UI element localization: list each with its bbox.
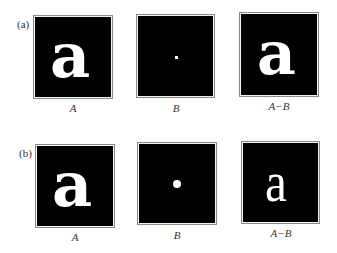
image-b-AminusB: a	[243, 143, 318, 222]
caption-a-AminusB: A−B	[239, 100, 319, 112]
caption-b-B: B	[137, 229, 217, 241]
caption-b-A: A	[35, 231, 115, 243]
image-b-B	[139, 144, 215, 223]
panel-b-AminusB: a	[241, 141, 320, 224]
row-label-b: (b)	[19, 147, 32, 159]
caption-a-B: B	[136, 102, 216, 114]
letter-a-glyph: a	[50, 25, 90, 87]
image-b-A: a	[37, 146, 113, 226]
point-structuring-element	[175, 56, 178, 59]
letter-a-glyph: a	[52, 154, 92, 216]
disk-structuring-element	[173, 180, 181, 188]
eroded-letter-a-glyph: a	[265, 153, 287, 211]
letter-a-glyph: a	[257, 23, 296, 83]
panel-a-AminusB: a	[239, 12, 319, 97]
image-a-AminusB: a	[241, 14, 317, 95]
caption-b-AminusB: A−B	[241, 227, 321, 239]
row-label-a: (a)	[17, 18, 29, 30]
panel-b-A: a	[35, 144, 115, 228]
image-a-A: a	[35, 17, 111, 97]
caption-a-A: A	[33, 102, 113, 114]
panel-a-B	[136, 14, 215, 98]
image-a-B	[138, 16, 213, 96]
panel-a-A: a	[33, 15, 113, 99]
panel-b-B	[137, 142, 217, 225]
